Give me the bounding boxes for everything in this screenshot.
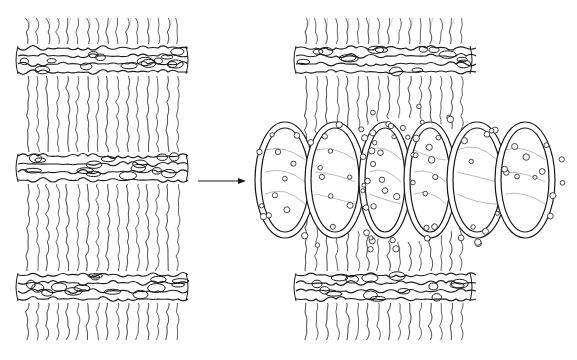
chromatin-band xyxy=(16,152,188,184)
rna-loop xyxy=(495,122,555,238)
chromatin-band xyxy=(16,271,189,303)
figure xyxy=(0,0,577,360)
chromosome-puff xyxy=(255,104,565,252)
chromatin-band xyxy=(294,44,476,76)
chromosome-puff-illustration xyxy=(0,0,577,360)
right-arrow-icon xyxy=(198,178,246,184)
rna-loop xyxy=(305,122,365,238)
chromatin-band xyxy=(16,44,188,76)
left-panel xyxy=(16,18,189,340)
chromatin-band xyxy=(294,271,476,303)
